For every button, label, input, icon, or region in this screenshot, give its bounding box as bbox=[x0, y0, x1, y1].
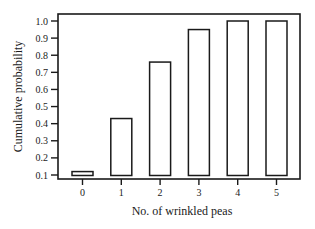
cumulative-probability-bar-chart: 0.10.20.30.40.50.60.70.80.91.0012345No. … bbox=[0, 0, 315, 229]
y-tick-label: 0.9 bbox=[36, 33, 49, 44]
y-tick-label: 0.8 bbox=[36, 50, 49, 61]
x-axis-label: No. of wrinkled peas bbox=[132, 204, 233, 218]
y-tick-label: 1.0 bbox=[36, 16, 49, 27]
bar-3 bbox=[188, 30, 209, 176]
y-tick-label: 0.5 bbox=[36, 101, 49, 112]
plot-frame bbox=[58, 14, 300, 179]
y-tick-label: 0.6 bbox=[36, 84, 49, 95]
y-axis-label: Cumulative probability bbox=[11, 41, 25, 153]
x-tick-label: 4 bbox=[235, 187, 240, 198]
x-tick-label: 1 bbox=[119, 187, 124, 198]
bar-2 bbox=[150, 62, 171, 175]
x-tick-label: 0 bbox=[80, 187, 85, 198]
bar-5 bbox=[266, 21, 287, 176]
x-tick-label: 2 bbox=[158, 187, 163, 198]
bar-1 bbox=[111, 119, 132, 176]
y-tick-label: 0.2 bbox=[36, 152, 49, 163]
y-tick-label: 0.4 bbox=[36, 118, 49, 129]
bar-4 bbox=[227, 21, 248, 176]
x-tick-label: 3 bbox=[196, 187, 201, 198]
y-tick-label: 0.1 bbox=[36, 170, 49, 181]
bar-0 bbox=[72, 172, 93, 176]
x-tick-label: 5 bbox=[274, 187, 279, 198]
y-tick-label: 0.7 bbox=[36, 67, 49, 78]
y-tick-label: 0.3 bbox=[36, 135, 49, 146]
